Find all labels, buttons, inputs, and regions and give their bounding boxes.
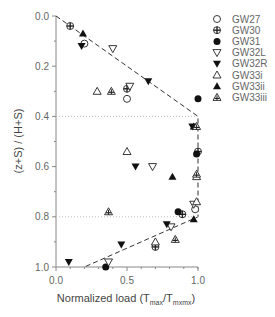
legend-marker-icon bbox=[213, 61, 221, 68]
legend-label: GW33iii bbox=[232, 92, 267, 103]
legend: GW27GW30GW31GW32LGW32RGW33iGW33iiGW33iii bbox=[213, 14, 268, 103]
data-point-gw33iii bbox=[193, 170, 201, 177]
data-point-gw33ii bbox=[190, 215, 198, 222]
data-point-gw31 bbox=[175, 208, 182, 215]
legend-item-gw30: GW30 bbox=[214, 25, 261, 36]
y-tick-label: 0.6 bbox=[35, 161, 49, 172]
chart-canvas: 0.00.20.40.60.81.00.00.51.0 GW27GW30GW31… bbox=[0, 0, 275, 317]
x-tick-label: 0.0 bbox=[49, 275, 63, 286]
data-point-gw32r bbox=[65, 259, 73, 266]
legend-item-gw33iii: GW33iii bbox=[213, 92, 267, 103]
legend-label: GW33i bbox=[232, 70, 263, 81]
data-point-gw27 bbox=[124, 95, 131, 102]
data-points bbox=[65, 23, 202, 271]
reference-lines bbox=[56, 16, 198, 267]
data-point-gw31 bbox=[193, 151, 200, 158]
y-tick-label: 0.8 bbox=[35, 211, 49, 222]
data-point-gw32r bbox=[117, 241, 125, 248]
legend-marker-icon bbox=[213, 50, 221, 57]
data-point-gw31 bbox=[195, 95, 202, 102]
data-point-gw30 bbox=[67, 23, 74, 30]
legend-item-gw32l: GW32L bbox=[213, 47, 266, 58]
legend-label: GW32L bbox=[232, 47, 266, 58]
y-tick-label: 1.0 bbox=[35, 262, 49, 273]
legend-item-gw31: GW31 bbox=[214, 36, 261, 47]
data-point-gw32l bbox=[149, 164, 157, 171]
legend-marker-icon bbox=[213, 93, 221, 100]
data-point-gw33ii bbox=[168, 173, 176, 180]
legend-item-gw27: GW27 bbox=[214, 14, 261, 25]
legend-item-gw33ii: GW33ii bbox=[213, 81, 265, 92]
y-tick-label: 0.0 bbox=[35, 11, 49, 22]
data-point-gw33iii bbox=[171, 235, 179, 242]
data-point-gw33i bbox=[151, 238, 159, 245]
data-point-gw32r bbox=[144, 78, 152, 85]
data-point-gw33i bbox=[123, 148, 131, 155]
y-tick-label: 0.2 bbox=[35, 61, 49, 72]
legend-label: GW32R bbox=[232, 58, 268, 69]
y-tick-label: 0.4 bbox=[35, 111, 49, 122]
legend-marker-icon bbox=[213, 82, 221, 89]
data-point-gw33iii bbox=[105, 208, 113, 215]
envelope-dashed-line bbox=[56, 16, 198, 267]
x-axis-title: Normalized load (Tmax/Tmxmx) bbox=[57, 292, 195, 306]
legend-marker-icon bbox=[214, 27, 221, 34]
legend-marker-icon bbox=[214, 38, 221, 45]
legend-label: GW31 bbox=[232, 36, 261, 47]
legend-item-gw33i: GW33i bbox=[213, 70, 263, 81]
legend-marker-icon bbox=[213, 71, 221, 78]
legend-item-gw32r: GW32R bbox=[213, 58, 268, 69]
data-point-gw32l bbox=[109, 46, 117, 53]
legend-label: GW30 bbox=[232, 25, 261, 36]
x-tick-label: 0.5 bbox=[120, 275, 134, 286]
data-point-gw33i bbox=[93, 87, 101, 94]
data-point-gw33ii bbox=[79, 30, 87, 37]
y-axis-title: (z+S) / (H+S) bbox=[12, 109, 24, 174]
data-point-gw32r bbox=[132, 164, 140, 171]
legend-marker-icon bbox=[214, 16, 221, 23]
data-point-gw33iii bbox=[107, 87, 115, 94]
legend-label: GW33ii bbox=[232, 81, 265, 92]
legend-label: GW27 bbox=[232, 14, 261, 25]
x-tick-label: 1.0 bbox=[191, 275, 205, 286]
